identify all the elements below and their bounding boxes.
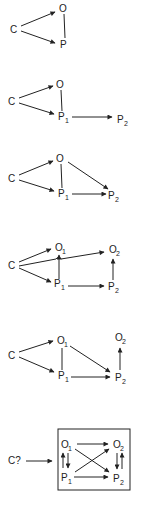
node-p1: P [58,111,65,122]
node-p2: P [108,190,115,201]
edge-c-p1 [19,180,54,191]
diagram-4: C O 1 O 2 P 1 P 2 [8,242,120,294]
causal-diagrams-figure: C O P C O P 1 P 2 C O P 1 P 2 C O 1 O [0,0,142,509]
node-o1-subscript: 1 [62,248,66,255]
diagram-3: C O P 1 P 2 [8,153,119,203]
node-o: O [59,3,67,14]
node-c: C [8,260,15,271]
node-c: C [10,24,17,35]
node-o1-subscript: 1 [68,445,72,452]
edge-c-o [19,161,53,175]
node-p1-subscript: 1 [68,478,72,485]
edge-c-p1 [19,268,51,282]
node-p1: P [58,188,65,199]
edge-c-o [19,86,53,98]
node-p1-subscript: 1 [65,194,69,201]
node-p2-subscript: 2 [122,378,126,385]
node-p2-subscript: 2 [115,196,119,203]
node-p1-subscript: 1 [65,117,69,124]
node-p2-subscript: 2 [115,287,119,294]
node-o: O [56,79,64,90]
edge-c-o1 [19,249,51,262]
node-p2: P [108,281,115,292]
diagram-2: C O P 1 P 2 [8,79,128,127]
node-p2-subscript: 2 [124,120,128,127]
edge-c-p1 [19,103,54,114]
node-c: C [8,173,15,184]
node-p2: P [115,372,122,383]
node-c-question: C? [8,455,21,466]
node-o1-subscript: 1 [64,341,68,348]
node-p1-subscript: 1 [65,376,69,383]
node-p2: P [113,473,120,484]
node-o: O [56,153,64,164]
node-c: C [8,96,15,107]
node-p1-subscript: 1 [61,284,65,291]
node-o2-subscript: 2 [116,250,120,257]
edge-o-p [64,14,65,38]
edge-o-p1 [61,164,62,188]
edge-c-p1 [19,357,54,372]
edge-o1-p2 [70,346,110,372]
edge-c-p [21,31,55,43]
node-p: P [60,39,67,50]
edge-o-p2 [68,162,108,189]
node-p1: P [58,370,65,381]
node-p1: P [54,278,61,289]
diagram-1: C O P [10,3,67,50]
edge-o-p1 [61,90,62,111]
diagram-5: C O 1 O 2 P 1 P 2 [8,332,126,385]
node-o2-subscript: 2 [122,338,126,345]
node-o2-subscript: 2 [120,445,124,452]
diagram-6: C? O 1 O 2 P 1 P 2 [8,429,130,490]
edge-c-o1 [19,341,53,352]
node-c: C [8,350,15,361]
node-p2: P [117,114,124,125]
node-p1: P [61,472,68,483]
edge-c-o [21,12,55,26]
node-p2-subscript: 2 [120,479,124,486]
